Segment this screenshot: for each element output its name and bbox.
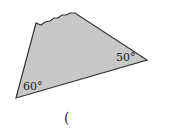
answer-paren: (	[64, 110, 69, 126]
angle-label-right: 50°	[116, 51, 136, 64]
angle-label-bottom-left: 60°	[23, 80, 43, 93]
torn-shape-diagram: 60° 50°	[0, 0, 176, 136]
